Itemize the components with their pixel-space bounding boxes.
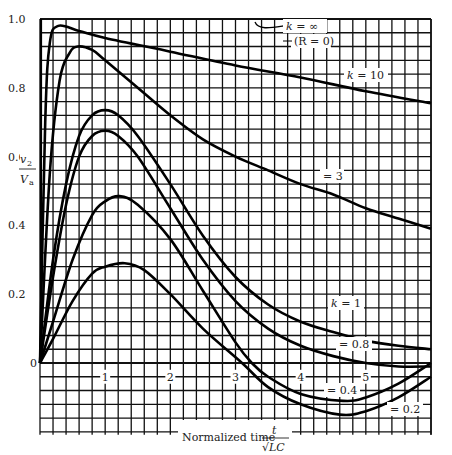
x-tick-label: 3 [232, 371, 239, 384]
y-tick-label: 0.4 [8, 219, 26, 232]
y-label-den-sub: a [29, 178, 34, 187]
step-response-chart: 00.20.40.60.81.012345 k = ∞(R = 0)k = 10… [0, 0, 452, 455]
y-label-num-sub: 2 [27, 159, 32, 168]
y-tick-label: 1.0 [8, 13, 26, 26]
label-k-0.4: = 0.4 [327, 384, 357, 397]
label-k-infinity: k = ∞ [286, 20, 318, 33]
infinity-hook [255, 22, 283, 28]
x-tick-label: 2 [167, 371, 174, 384]
label-k-3: = 3 [323, 170, 343, 183]
x-label-num: t [272, 424, 277, 437]
x-tick-label: 5 [362, 371, 369, 384]
x-tick-label: 1 [102, 371, 109, 384]
label-k-0.8: = 0.8 [339, 338, 369, 351]
y-tick-label: 0.8 [8, 82, 26, 95]
y-label-num: v [20, 153, 27, 166]
y-label-den: V [20, 173, 29, 186]
x-label-den: √LC [262, 441, 285, 454]
x-tick-label: 4 [297, 371, 304, 384]
label-k-1: k = 1 [331, 297, 361, 310]
y-tick-label: 0.2 [8, 288, 26, 301]
label-k-0.2: = 0.2 [390, 403, 420, 416]
label-k-10: k = 10 [347, 69, 384, 82]
label-r-zero: (R = 0) [294, 35, 334, 48]
y-tick-label: 0 [30, 357, 37, 370]
